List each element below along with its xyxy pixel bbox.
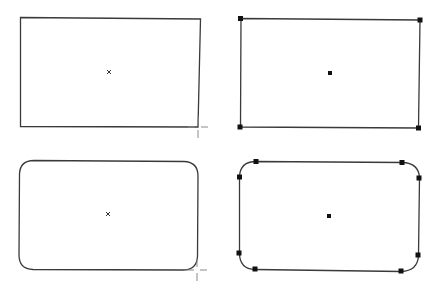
center-x-icon bbox=[107, 70, 111, 74]
resize-handle-top-right[interactable] bbox=[418, 18, 423, 23]
resize-handle-top-left-h[interactable] bbox=[254, 159, 259, 164]
resize-handle-bottom-left-h[interactable] bbox=[253, 267, 258, 272]
resize-handle-top-right-v[interactable] bbox=[417, 176, 422, 181]
resize-handle-bottom-right-v[interactable] bbox=[416, 253, 421, 258]
rounded-rectangle-unselected[interactable] bbox=[19, 161, 207, 282]
diagram-canvas bbox=[0, 0, 439, 289]
center-handle[interactable] bbox=[328, 71, 332, 75]
resize-handle-top-left[interactable] bbox=[238, 16, 243, 21]
rectangle-unselected[interactable] bbox=[21, 18, 209, 139]
resize-handle-top-left-v[interactable] bbox=[237, 175, 242, 180]
rectangle-outline[interactable] bbox=[21, 18, 201, 128]
crosshair-cursor-icon bbox=[187, 259, 207, 281]
rounded-rectangle-outline[interactable] bbox=[19, 161, 198, 271]
resize-handle-bottom-right-h[interactable] bbox=[399, 269, 404, 274]
rounded-rectangle-selected[interactable] bbox=[237, 159, 422, 274]
resize-handle-bottom-right[interactable] bbox=[416, 126, 421, 131]
resize-handle-top-right-h[interactable] bbox=[400, 160, 405, 165]
rectangle-selected[interactable] bbox=[238, 16, 423, 131]
center-handle[interactable] bbox=[327, 214, 331, 218]
resize-handle-bottom-left[interactable] bbox=[238, 125, 243, 130]
resize-handle-bottom-left-v[interactable] bbox=[237, 251, 242, 256]
center-x-icon bbox=[106, 212, 110, 216]
